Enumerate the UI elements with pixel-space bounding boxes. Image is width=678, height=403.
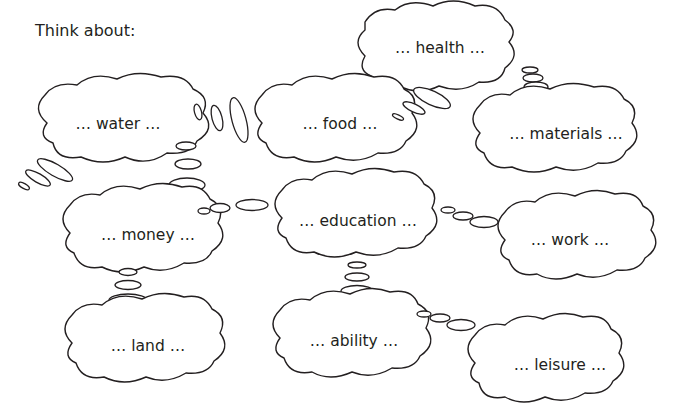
bubble bbox=[209, 104, 225, 132]
cloud-label-money: … money … bbox=[101, 226, 195, 244]
bubble bbox=[236, 200, 268, 211]
bubble bbox=[175, 159, 201, 169]
cloud-label-education: … education … bbox=[299, 212, 417, 230]
bubble bbox=[441, 207, 455, 213]
cloud-label-materials: … materials … bbox=[509, 125, 623, 143]
cloud-label-work: … work … bbox=[531, 231, 609, 249]
bubble bbox=[226, 96, 251, 144]
bubble bbox=[447, 320, 475, 331]
cloud-label-food: … food … bbox=[302, 115, 377, 133]
bubble bbox=[348, 262, 366, 268]
bubble bbox=[115, 281, 141, 290]
cloud-label-health: … health … bbox=[395, 39, 485, 57]
bubble bbox=[345, 273, 369, 281]
bubble bbox=[470, 217, 498, 228]
bubble bbox=[522, 67, 538, 73]
bubble bbox=[119, 269, 137, 276]
bubble bbox=[210, 204, 230, 213]
cloud-label-water: … water … bbox=[75, 115, 160, 133]
cloud-label-leisure: … leisure … bbox=[514, 356, 606, 374]
bubble bbox=[176, 142, 196, 150]
cloud-label-land: … land … bbox=[111, 337, 185, 355]
bubble bbox=[453, 212, 473, 220]
cloud-label-ability: … ability … bbox=[310, 332, 398, 350]
bubble bbox=[523, 74, 543, 82]
bubble bbox=[430, 314, 450, 322]
bubble bbox=[18, 181, 31, 191]
bubble bbox=[198, 208, 210, 214]
bubble bbox=[417, 311, 431, 317]
